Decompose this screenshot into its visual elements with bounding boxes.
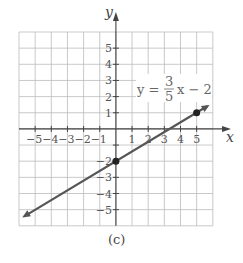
equation-lhs: y = <box>136 82 159 97</box>
coordinate-plane: −5−5−4−4−3−3−2−2−11122334455 y x y = 3 5… <box>0 0 243 263</box>
svg-text:3: 3 <box>105 74 112 87</box>
equation-denominator: 5 <box>165 89 173 104</box>
svg-text:−4: −4 <box>96 188 112 201</box>
svg-text:−3: −3 <box>58 133 74 146</box>
svg-text:5: 5 <box>193 133 200 146</box>
svg-text:2: 2 <box>105 91 112 104</box>
svg-text:−5: −5 <box>26 133 42 146</box>
equation-rhs: x − 2 <box>177 82 212 97</box>
svg-text:−1: −1 <box>91 133 107 146</box>
svg-text:3: 3 <box>161 133 168 146</box>
data-point <box>193 109 200 116</box>
figure-caption: (c) <box>108 232 125 247</box>
svg-text:1: 1 <box>105 107 112 120</box>
svg-text:−2: −2 <box>74 133 90 146</box>
svg-text:5: 5 <box>105 42 112 55</box>
equation-numerator: 3 <box>165 74 173 89</box>
x-axis-label: x <box>226 129 234 145</box>
data-point <box>112 158 119 165</box>
svg-text:1: 1 <box>129 133 136 146</box>
equation-label: y = 3 5 x − 2 <box>136 74 212 104</box>
svg-text:4: 4 <box>177 133 184 146</box>
svg-text:−4: −4 <box>42 133 58 146</box>
y-axis-label: y <box>104 4 114 20</box>
svg-text:−3: −3 <box>96 171 112 184</box>
svg-text:−5: −5 <box>96 204 112 217</box>
svg-text:4: 4 <box>105 58 112 71</box>
